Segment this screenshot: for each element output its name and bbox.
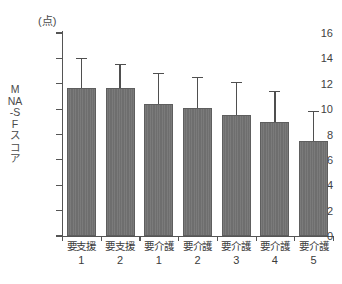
x-label-care-level-number: 2 bbox=[101, 254, 140, 267]
x-label-care-level-name: 要支援 bbox=[101, 240, 140, 253]
x-axis-category-label: 要支援2 bbox=[101, 240, 140, 267]
x-label-care-level-name: 要介護 bbox=[217, 240, 256, 253]
x-label-care-level-number: 1 bbox=[139, 254, 178, 267]
x-label-care-level-name: 要介護 bbox=[294, 240, 333, 253]
x-label-care-level-name: 要支援 bbox=[62, 240, 101, 253]
x-label-care-level-number: 1 bbox=[62, 254, 101, 267]
x-axis-category-label: 要介護2 bbox=[178, 240, 217, 267]
x-label-care-level-number: 4 bbox=[256, 254, 295, 267]
x-axis-category-label: 要支援1 bbox=[62, 240, 101, 267]
x-axis-category-label: 要介護5 bbox=[294, 240, 333, 267]
x-label-care-level-name: 要介護 bbox=[139, 240, 178, 253]
x-label-care-level-number: 2 bbox=[178, 254, 217, 267]
x-axis-category-label: 要介護3 bbox=[217, 240, 256, 267]
x-axis-labels: 要支援1要支援2要介護1要介護2要介護3要介護4要介護5 bbox=[0, 0, 342, 284]
x-axis-category-label: 要介護1 bbox=[139, 240, 178, 267]
x-axis-category-label: 要介護4 bbox=[256, 240, 295, 267]
bar-chart-figure: (点) MNA-SFスコア 0246810121416 要支援1要支援2要介護1… bbox=[0, 0, 342, 284]
x-label-care-level-number: 5 bbox=[294, 254, 333, 267]
x-label-care-level-name: 要介護 bbox=[256, 240, 295, 253]
x-label-care-level-number: 3 bbox=[217, 254, 256, 267]
x-label-care-level-name: 要介護 bbox=[178, 240, 217, 253]
